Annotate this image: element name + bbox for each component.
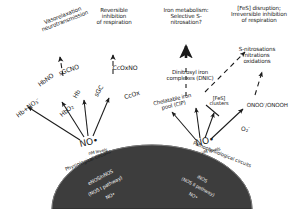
nos-ii-line3: NO• [188,191,199,200]
species-superoxide: O2– [232,120,252,140]
no-signalling-diagram: Vasorelaxation neurotransmission Reversi… [0,0,303,209]
hb-no3-text: Hb+NO [14,99,36,118]
onoo-text: ONOO [247,101,264,107]
onoo-to-nitrosations-arrow [255,72,262,95]
species-ccoxno: CcOxNO [104,65,146,72]
outcome-s-nitrosations: S-nitrosations nitrations oxidations [222,47,292,65]
species-peroxynitrite: ONOO–/ONOOH [227,96,301,114]
superoxide-superscript: – [248,126,250,131]
nos-ii-line1: iNOS [196,174,208,183]
outcome-reversible-inhibition: Reversible inhibition of respiration [85,8,143,26]
outcome-iron-metabolism: Iron metabolism: Selective S- nitrosatio… [151,8,221,26]
onoo-tail-text: /ONOOH [265,101,288,107]
nos-i-line3: NO• [104,190,116,200]
species-dnic: Dinitrosyl iron complexes (DNIC) [155,70,225,82]
outcome-fes-disruption: [FeS] disruption; Irreversible inhibitio… [215,6,303,24]
